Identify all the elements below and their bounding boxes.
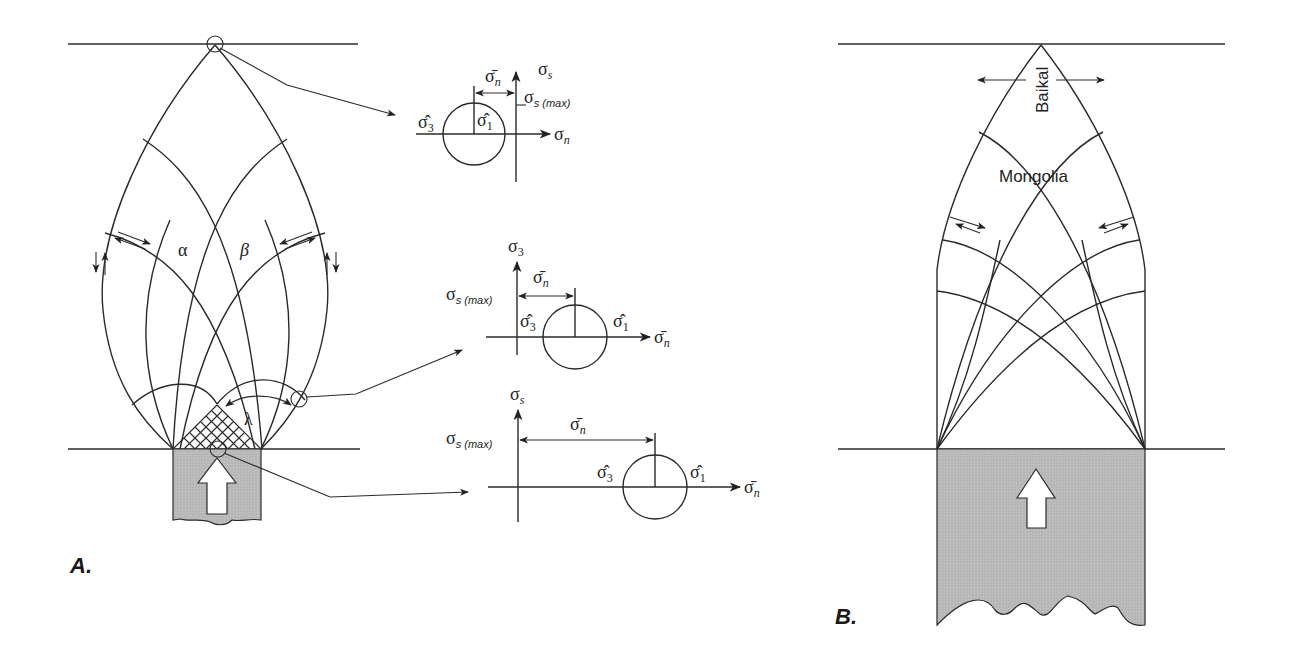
tau-max-label: σs (max) xyxy=(524,87,571,109)
tau-max-label: σs (max) xyxy=(446,284,493,306)
y-axis-label: σs xyxy=(510,384,525,407)
sigma3-label: σ̂3 xyxy=(520,311,536,334)
fan-arc-right xyxy=(217,380,305,404)
sigma3-label: σ̂3 xyxy=(418,112,434,135)
sigma3-label: σ̂3 xyxy=(597,462,613,485)
mean-stress-label: σ̄n xyxy=(485,66,501,89)
mohr-circle-top: σs σ̄n σs (max) σn σ̂3 σ̂1 xyxy=(416,59,571,182)
x-axis-label: σ̄n xyxy=(744,477,760,500)
alpha-label: α xyxy=(178,240,188,260)
leader-arrow-middle xyxy=(307,350,462,397)
slip-line-inner-left xyxy=(146,220,173,449)
diagram-canvas: λ α β A. xyxy=(0,0,1312,654)
sigma1-label: σ̂1 xyxy=(690,462,706,485)
fan-arc-left xyxy=(132,384,217,405)
mean-stress-label: σ̄n xyxy=(533,267,549,290)
shear-sense-arrows-right xyxy=(1099,217,1134,233)
x-axis-label: σn xyxy=(554,124,570,147)
envelope-left xyxy=(215,45,328,449)
slip-line-inner-right xyxy=(261,220,289,449)
mohr-circle-middle: σ3 σ̄n σs (max) σ̄n σ̂3 σ̂1 xyxy=(446,236,670,369)
leader-arrow-top xyxy=(220,48,395,115)
panel-b-label: B. xyxy=(835,604,857,629)
mean-stress-label: σ̄n xyxy=(570,414,586,437)
tau-max-label: σs (max) xyxy=(446,428,493,450)
panel-a-label: A. xyxy=(69,553,92,578)
x-axis-label: σ̄n xyxy=(654,327,670,350)
slip-line-inner-left xyxy=(937,240,1000,449)
y-axis-label: σs xyxy=(538,59,553,82)
beta-label: β xyxy=(239,240,249,260)
lambda-label: λ xyxy=(244,409,253,429)
mongolia-label: Mongolia xyxy=(999,167,1069,186)
baikal-label: Baikal xyxy=(1033,67,1052,113)
sigma1-label: σ̂1 xyxy=(477,110,493,133)
panel-a: λ α β A. xyxy=(68,36,468,578)
slip-line-beta xyxy=(173,139,287,449)
y-axis-label: σ3 xyxy=(508,236,524,259)
slip-line-alpha-lower xyxy=(105,233,255,449)
slip-line-alpha xyxy=(143,139,262,449)
shear-sense-arrows-left xyxy=(950,217,985,233)
indenter-block xyxy=(937,449,1145,625)
lambda-angle-arrow xyxy=(226,396,291,406)
sigma1-label: σ̂1 xyxy=(613,311,629,334)
slip-line-inner-right xyxy=(1082,240,1145,449)
mohr-circle-bottom: σs σ̄n σs (max) σ̄n σ̂3 σ̂1 xyxy=(446,384,760,522)
panel-b: Baikal Mongolia B. xyxy=(835,44,1225,629)
